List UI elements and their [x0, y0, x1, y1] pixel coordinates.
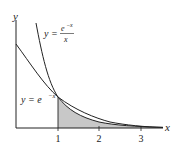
label-y-equals-e: y = e	[20, 94, 42, 105]
label-curve-exp-neg-x-over-x: y = e −x x	[43, 22, 74, 44]
label-numerator-exp: −x	[66, 22, 73, 28]
label-numerator-e: e	[61, 24, 65, 33]
chart-canvas: y x 1 2 3 y = e −x x y = e −x	[0, 0, 183, 146]
label-curve-exp-neg-x: y = e −x	[20, 92, 55, 105]
label-exp: −x	[48, 92, 55, 99]
y-axis-label: y	[12, 10, 18, 22]
tick-label-1: 1	[56, 133, 61, 144]
label-denominator-x: x	[63, 35, 68, 44]
tick-label-3: 3	[139, 133, 144, 144]
label-y-equals: y =	[43, 28, 58, 39]
curve-exp-neg-x	[16, 44, 163, 128]
tick-label-2: 2	[97, 133, 102, 144]
x-axis-label: x	[164, 121, 170, 133]
